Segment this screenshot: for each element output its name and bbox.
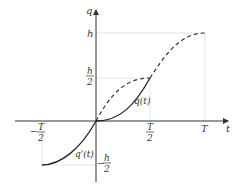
svg-text:2: 2 bbox=[37, 133, 44, 143]
x-tick-neg-T-half: − T 2 bbox=[30, 122, 45, 143]
svg-text:T: T bbox=[38, 122, 45, 132]
svg-text:2: 2 bbox=[146, 133, 153, 143]
svg-text:2: 2 bbox=[103, 164, 110, 174]
svg-text:T: T bbox=[147, 122, 154, 132]
y-tick-neg-h-half: − h 2 bbox=[97, 153, 111, 174]
x-axis-label: t bbox=[226, 123, 231, 134]
svg-text:−: − bbox=[30, 126, 38, 136]
y-axis-label: q bbox=[86, 5, 92, 16]
dashed-second-half-curve bbox=[150, 33, 205, 78]
guide-lines bbox=[42, 33, 205, 165]
y-tick-h: h bbox=[87, 28, 93, 39]
x-tick-T: T bbox=[201, 123, 209, 134]
svg-text:2: 2 bbox=[86, 77, 93, 87]
svg-text:h: h bbox=[87, 66, 93, 76]
x-tick-T-half: T 2 bbox=[146, 122, 154, 143]
velocity-curve-label: q'(t) bbox=[75, 149, 94, 159]
trajectory-diagram: q t h h 2 − h 2 − T 2 T 2 T q(t) q'(t) bbox=[0, 0, 241, 191]
svg-text:h: h bbox=[104, 153, 110, 163]
y-tick-h-half: h 2 bbox=[86, 66, 94, 87]
position-curve-label: q(t) bbox=[134, 96, 151, 106]
